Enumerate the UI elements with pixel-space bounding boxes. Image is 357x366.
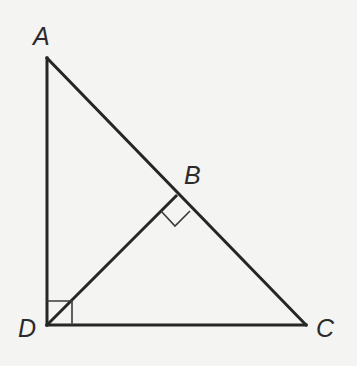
point-label-a: A (31, 22, 50, 50)
segment-db-altitude (47, 196, 176, 325)
triangle-figure: A B D C (0, 0, 357, 366)
point-label-d: D (18, 314, 36, 342)
point-label-b: B (184, 161, 201, 189)
point-label-c: C (316, 314, 335, 342)
right-angle-marker-b (161, 211, 190, 226)
geometry-diagram: A B D C (0, 0, 357, 366)
